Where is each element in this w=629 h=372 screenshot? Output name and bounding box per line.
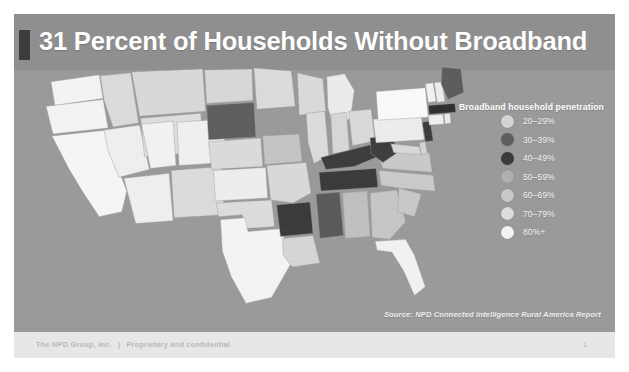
state-ks: Kansas — 80%+ <box>214 167 268 200</box>
legend-item-label: 40–49% <box>523 153 555 163</box>
footer-text: The NPD Group, Inc. | Proprietary and co… <box>36 340 230 349</box>
state-ri: Rhode Island — 80%+ <box>444 113 451 124</box>
legend-item: 70–79% <box>501 205 615 224</box>
state-il: Illinois — 70–79% <box>306 111 329 163</box>
legend-item: 50–59% <box>501 168 615 187</box>
state-nc: North Carolina — 60–69% <box>379 170 435 191</box>
state-az: Arizona — 80%+ <box>124 173 173 223</box>
us-states-map: Washington — 80%+Oregon — 80%+California… <box>22 64 472 330</box>
state-mo: Missouri — 70–79% <box>267 163 311 203</box>
state-ia: Iowa — 60–69% <box>263 134 302 165</box>
legend-swatch-icon <box>501 115 514 128</box>
footer-company: The NPD Group, Inc. <box>36 340 112 349</box>
map-legend: Broadband household penetration 20–29%30… <box>457 102 615 242</box>
slide-title-bar: 31 Percent of Households Without Broadba… <box>14 14 615 70</box>
state-ma: Massachusetts — 40–49% <box>428 103 456 114</box>
footer-separator: | <box>118 340 120 349</box>
state-mn: Minnesota — 70–79% <box>254 68 295 109</box>
state-tn: Tennessee — 40–49% <box>319 168 378 191</box>
legend-item-label: 50–59% <box>523 172 555 182</box>
legend-item-label: 30–39% <box>523 135 555 145</box>
legend-item: 30–39% <box>501 131 615 150</box>
legend-item: 20–29% <box>501 112 615 131</box>
page-number: 1 <box>583 340 587 349</box>
slide-canvas: 31 Percent of Households Without Broadba… <box>14 14 615 358</box>
legend-item-label: 60–69% <box>523 190 555 200</box>
legend-title: Broadband household penetration <box>459 102 615 112</box>
state-ne: Nebraska — 70–79% <box>209 138 263 170</box>
source-note: Source: NPD Connected Intelligence Rural… <box>384 310 601 319</box>
state-ms: Mississippi — 30–39% <box>316 192 344 238</box>
legend-item: 40–49% <box>501 149 615 168</box>
state-ct: Connecticut — 80%+ <box>428 114 444 125</box>
state-fl: Florida — 80%+ <box>375 239 425 295</box>
legend-swatch-icon <box>501 133 514 146</box>
footer-confidentiality: Proprietary and confidential <box>126 340 230 349</box>
state-in: Indiana — 70–79% <box>331 112 350 153</box>
legend-swatch-icon <box>501 189 514 202</box>
legend-swatch-icon <box>501 152 514 165</box>
state-al: Alabama — 60–69% <box>343 191 371 238</box>
state-ny: New York — 80%+ <box>376 88 428 121</box>
legend-swatch-icon <box>501 207 514 220</box>
legend-swatch-icon <box>501 170 514 183</box>
slide-title: 31 Percent of Households Without Broadba… <box>39 27 587 56</box>
legend-item: 80%+ <box>501 223 615 242</box>
state-nd: North Dakota — 70–79% <box>205 69 253 103</box>
title-accent-bar <box>19 30 30 60</box>
state-mt: Montana — 70–79% <box>132 69 206 116</box>
state-wi: Wisconsin — 70–79% <box>297 73 326 115</box>
legend-item-label: 20–29% <box>523 116 555 126</box>
state-sd: South Dakota — 30–39% <box>207 102 256 139</box>
legend-items: 20–29%30–39%40–49%50–59%60–69%70–79%80%+ <box>457 112 615 242</box>
state-me: Maine — 30–39% <box>441 67 464 100</box>
legend-swatch-icon <box>501 226 514 239</box>
legend-item-label: 80%+ <box>523 227 545 237</box>
legend-item: 60–69% <box>501 186 615 205</box>
state-ar: Arkansas — 40–49% <box>277 202 313 236</box>
slide-footer: The NPD Group, Inc. | Proprietary and co… <box>14 332 615 358</box>
state-sc: South Carolina — 60–69% <box>398 188 422 217</box>
legend-item-label: 70–79% <box>523 209 555 219</box>
